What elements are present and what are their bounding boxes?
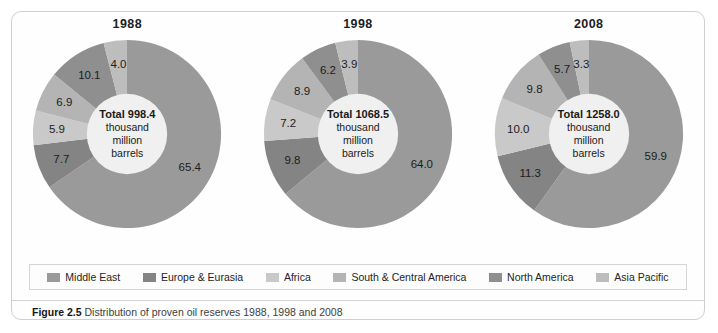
pie-slice-label: 7.7 [53, 153, 69, 165]
charts-row: 1988 Total 998.4 thousand million barrel… [12, 16, 704, 256]
legend-item[interactable]: South & Central America [333, 271, 466, 283]
legend-item-label: Asia Pacific [614, 271, 668, 283]
chart-title-1988: 1988 [113, 16, 142, 32]
donut-1988: Total 998.4 thousand million barrels 65.… [29, 36, 225, 232]
chart-legend: Middle EastEurope & EurasiaAfricaSouth &… [29, 264, 687, 290]
pie-slice-label: 10.1 [78, 69, 100, 81]
pie-slice-label: 9.8 [285, 154, 301, 166]
figure-caption: Figure 2.5 Distribution of proven oil re… [32, 306, 343, 318]
caption-divider [12, 300, 705, 301]
pie-chart-1998: 1998 Total 1068.5 thousand million barre… [247, 16, 469, 232]
pie-slice-label: 64.0 [411, 158, 433, 170]
legend-swatch-icon [596, 273, 609, 282]
figure-caption-text: Distribution of proven oil reserves 1988… [85, 306, 343, 318]
pie-slice-label: 8.9 [294, 85, 310, 97]
pie-chart-1988: 1988 Total 998.4 thousand million barrel… [16, 16, 238, 232]
legend-swatch-icon [333, 273, 346, 282]
pie-slice-label: 10.0 [507, 123, 529, 135]
pie-slice-label: 6.2 [320, 64, 336, 76]
pie-slice-label: 9.8 [527, 83, 543, 95]
donut-1998: Total 1068.5 thousand million barrels 64… [260, 36, 456, 232]
legend-item-label: North America [507, 271, 574, 283]
donut-center-hole [318, 94, 398, 174]
pie-slice-label: 65.4 [179, 161, 201, 173]
figure-card: 1988 Total 998.4 thousand million barrel… [11, 11, 705, 320]
pie-slice-label: 7.2 [280, 117, 296, 129]
legend-swatch-icon [143, 273, 156, 282]
legend-item[interactable]: Africa [266, 271, 311, 283]
pie-slice-label: 5.9 [49, 123, 65, 135]
donut-center-hole [87, 94, 167, 174]
pie-slice-label: 5.7 [554, 63, 570, 75]
legend-item[interactable]: Asia Pacific [596, 271, 668, 283]
pie-slice-label: 11.3 [519, 167, 541, 179]
pie-slice-label: 59.9 [645, 150, 667, 162]
legend-swatch-icon [266, 273, 279, 282]
legend-item-label: Europe & Eurasia [161, 271, 243, 283]
legend-item-label: Middle East [65, 271, 120, 283]
legend-item[interactable]: Europe & Eurasia [143, 271, 243, 283]
donut-2008: Total 1258.0 thousand million barrels 59… [491, 36, 687, 232]
legend-item-label: South & Central America [351, 271, 466, 283]
chart-title-2008: 2008 [574, 16, 603, 32]
pie-slice-label: 6.9 [56, 96, 72, 108]
pie-slice-label: 3.3 [573, 58, 589, 70]
pie-chart-2008: 2008 Total 1258.0 thousand million barre… [478, 16, 700, 232]
donut-svg-1998 [260, 36, 456, 232]
chart-title-1998: 1998 [343, 16, 372, 32]
donut-center-hole [548, 94, 628, 174]
legend-item[interactable]: Middle East [47, 271, 120, 283]
legend-swatch-icon [489, 273, 502, 282]
legend-swatch-icon [47, 273, 60, 282]
legend-item[interactable]: North America [489, 271, 574, 283]
legend-item-label: Africa [284, 271, 311, 283]
figure-caption-number: Figure 2.5 [32, 306, 82, 318]
pie-slice-label: 3.9 [341, 58, 357, 70]
pie-slice-label: 4.0 [110, 58, 126, 70]
